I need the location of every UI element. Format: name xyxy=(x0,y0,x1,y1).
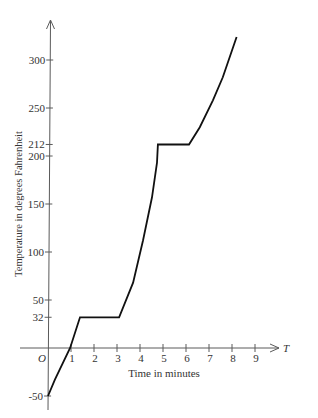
y-tick-label: 212 xyxy=(28,138,45,150)
x-axis: 123456789 T O xyxy=(20,342,290,364)
x-tick-label: 3 xyxy=(115,352,121,364)
x-axis-label: Time in minutes xyxy=(128,367,200,379)
x-tick-label: 1 xyxy=(69,352,75,364)
y-tick-label: 32 xyxy=(33,311,44,323)
y-tick-label: 100 xyxy=(28,246,45,258)
y-axis-label: Temperature in degrees Fahrenheit xyxy=(13,131,24,277)
x-tick-label: 4 xyxy=(138,352,144,364)
x-tick-label: 7 xyxy=(207,352,213,364)
temperature-time-chart: 3002502122001501005032-50 123456789 T O … xyxy=(0,0,318,418)
x-tick-label: 5 xyxy=(161,352,167,364)
origin-label: O xyxy=(38,352,46,364)
x-tick-label: 8 xyxy=(230,352,236,364)
y-tick-label: 200 xyxy=(28,150,45,162)
y-tick-label: 300 xyxy=(29,54,46,66)
y-tick-label: 50 xyxy=(33,294,45,306)
x-axis-name: T xyxy=(283,342,290,354)
y-tick-label: 250 xyxy=(28,102,45,114)
x-tick-label: 2 xyxy=(92,352,98,364)
y-tick-label: -50 xyxy=(28,390,43,402)
x-tick-label: 6 xyxy=(184,352,190,364)
y-axis-line xyxy=(48,21,51,410)
x-tick-label: 9 xyxy=(253,352,259,364)
y-tick-label: 150 xyxy=(28,198,45,210)
x-ticks: 123456789 xyxy=(69,344,259,364)
temperature-curve xyxy=(48,37,237,396)
